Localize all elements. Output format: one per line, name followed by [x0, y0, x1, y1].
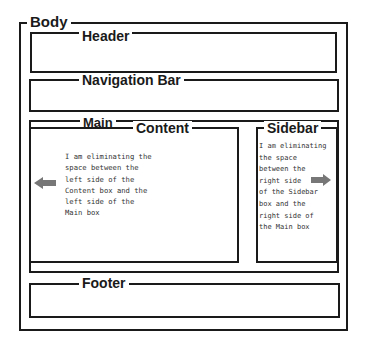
- header-box: [30, 32, 337, 73]
- sidebar-note: I am eliminating the space between the r…: [259, 141, 326, 234]
- sidebar-label: Sidebar: [264, 121, 321, 135]
- content-label: Content: [133, 121, 192, 135]
- footer-box: [29, 283, 340, 318]
- content-note: I am eliminating the space between the l…: [65, 151, 152, 219]
- footer-label: Footer: [79, 276, 129, 290]
- nav-box: [29, 79, 339, 112]
- nav-label: Navigation Bar: [79, 73, 184, 87]
- header-label: Header: [79, 29, 132, 43]
- arrow-right-icon: [311, 174, 331, 186]
- body-label: Body: [27, 14, 71, 29]
- arrow-left-icon: [34, 177, 56, 189]
